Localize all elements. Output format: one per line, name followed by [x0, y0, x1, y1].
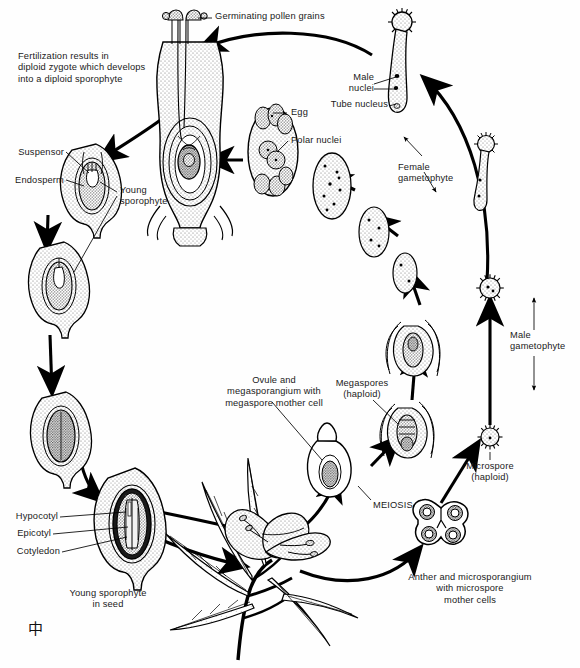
label-polar-nuclei: Polar nuclei	[291, 135, 341, 146]
label-meiosis: MEIOSIS	[373, 500, 413, 511]
embryo-sac-eight-nucleate	[313, 153, 351, 219]
ovule-megaspore-mother-cell	[307, 423, 351, 497]
label-fertilization-note: Fertilization results in diploid zygote …	[18, 51, 145, 85]
label-young-sporophyte: Young sporophyte	[120, 185, 168, 208]
label-anther-microsporangium: Anther and microsporangium with microspo…	[370, 572, 570, 606]
germinated-pollen-with-tube	[388, 8, 416, 112]
embryo-sac-two-nucleate	[393, 253, 417, 293]
label-hypocotyl: Hypocotyl	[0, 511, 58, 522]
label-ovule-megasporangium: Ovule and megasporangium with megaspore …	[190, 375, 358, 409]
microspore-haploid	[478, 425, 503, 450]
label-tube-nucleus: Tube nucleus	[302, 99, 388, 110]
life-cycle-diagram: Germinating pollen grains Fertilization …	[0, 0, 580, 668]
label-endosperm: Endosperm	[0, 175, 64, 186]
anther-cross-section	[413, 500, 468, 545]
artist-signature: 中	[28, 617, 43, 638]
label-suspensor: Suspensor	[0, 147, 64, 158]
ovule-developing-sac	[386, 320, 440, 376]
label-male-nuclei: Male nuclei	[326, 72, 374, 95]
mature-seed	[30, 392, 91, 488]
pollen-grain-male-gametophyte	[476, 274, 504, 302]
label-cotyledon: Cotyledon	[0, 546, 60, 557]
diagram-artwork	[0, 0, 580, 668]
label-young-sporophyte-in-seed: Young sporophyte in seed	[48, 588, 168, 611]
label-female-gametophyte: Female gametophyte	[398, 162, 453, 185]
embryo-mid-stage	[28, 242, 89, 338]
embryo-sac-four-nucleate	[359, 207, 389, 257]
label-microspore-haploid: Microspore (haploid)	[452, 461, 528, 484]
embryo-young-with-suspensor	[60, 144, 121, 238]
label-epicotyl: Epicotyl	[0, 528, 51, 539]
pistil-with-pollen-tubes	[148, 10, 233, 246]
label-germinating-pollen-grains: Germinating pollen grains	[215, 11, 325, 22]
label-male-gametophyte: Male gametophyte	[510, 330, 565, 353]
